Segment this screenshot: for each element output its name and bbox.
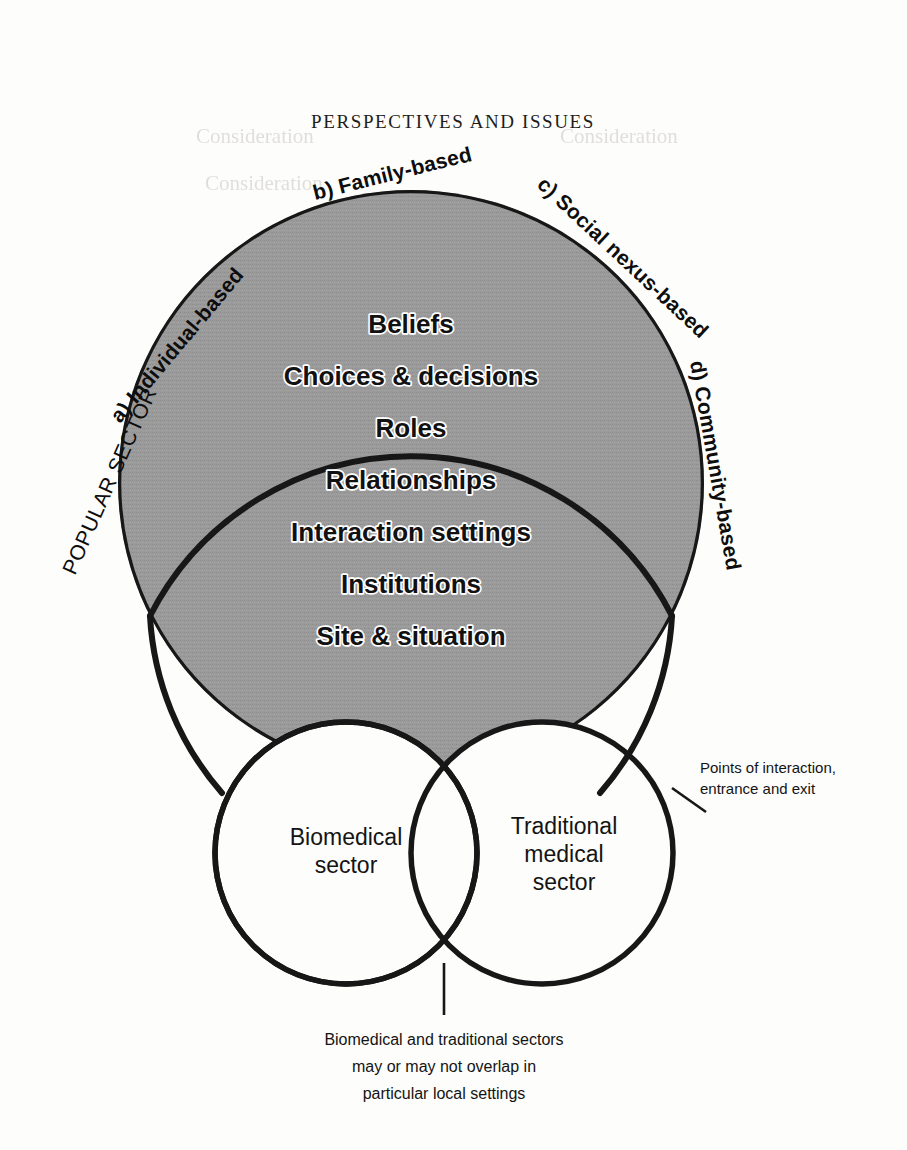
overlap-caption-line2: may or may not overlap in	[352, 1058, 536, 1075]
biomedical-sector-label-line1: Biomedical	[290, 824, 403, 850]
traditional-sector-label-line3: sector	[533, 869, 596, 895]
sector-item: Interaction settings	[291, 517, 531, 547]
sector-item: Choices & decisions	[284, 361, 538, 391]
running-head: PERSPECTIVES AND ISSUES	[311, 111, 595, 132]
sector-item: Relationships	[326, 465, 496, 495]
overlap-caption-line3: particular local settings	[363, 1085, 526, 1102]
bleed-line: Consideration	[205, 171, 323, 195]
points-of-interaction-line1: Points of interaction,	[700, 759, 836, 776]
overlap-caption-line1: Biomedical and traditional sectors	[324, 1031, 563, 1048]
points-of-interaction-annotation: Points of interaction, entrance and exit	[672, 759, 836, 812]
sector-item: Beliefs	[368, 309, 453, 339]
sector-item: Site & situation	[316, 621, 505, 651]
bleed-line: Consideration	[196, 124, 314, 148]
traditional-sector-label-line2: medical	[524, 841, 603, 867]
health-sector-diagram: Consideration Consideration Consideratio…	[0, 0, 907, 1150]
traditional-sector-label-line1: Traditional	[511, 813, 618, 839]
biomedical-sector-label-line2: sector	[315, 852, 378, 878]
points-of-interaction-line2: entrance and exit	[700, 780, 816, 797]
figure-root: Consideration Consideration Consideratio…	[0, 0, 907, 1150]
sector-item: Roles	[376, 413, 447, 443]
sector-item: Institutions	[341, 569, 481, 599]
